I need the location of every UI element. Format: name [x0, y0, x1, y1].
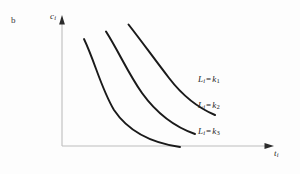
curve-k2 [106, 32, 195, 135]
y-axis-label-subscript: i [54, 14, 56, 21]
x-axis-arrowhead-icon [265, 143, 275, 149]
panel-letter: b [11, 15, 16, 25]
figure-panel-b: b ci ti Li=k1 Li=k2 Li=k3 [0, 0, 300, 174]
x-axis-label: ti [274, 148, 279, 158]
curve-label-k1: Li=k1 [198, 74, 220, 84]
x-axis-label-subscript: i [277, 151, 279, 158]
plot-area [0, 0, 300, 174]
curve-label-k2-value-subscript: 2 [217, 103, 221, 110]
curve-label-k3-value-subscript: 3 [217, 129, 221, 136]
curve-label-k3: Li=k3 [198, 126, 220, 136]
y-axis-label: ci [50, 11, 56, 21]
curve-label-k2: Li=k2 [198, 100, 220, 110]
curve-k3 [84, 39, 180, 147]
y-axis-arrowhead-icon [59, 15, 65, 25]
curve-label-k1-value-subscript: 1 [217, 77, 221, 84]
